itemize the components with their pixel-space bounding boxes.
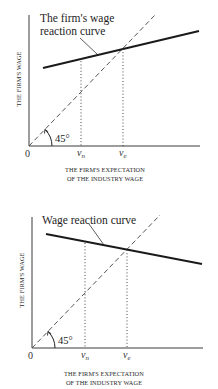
- curve-label-line1: The firm's wage: [40, 12, 114, 25]
- ve-label: ve: [119, 147, 127, 160]
- angle-label: 45°: [55, 133, 70, 144]
- vn-label: vn: [77, 147, 85, 160]
- vn-label: vn: [81, 349, 89, 362]
- angle-arc: [45, 130, 52, 147]
- curve-label: Wage reaction curve: [42, 214, 136, 227]
- x-axis-title-line1: THE FIRM'S EXPECTATION: [64, 370, 144, 377]
- x-axis-title-line1: THE FIRM'S EXPECTATION: [65, 166, 145, 173]
- x-axis-title-line2: OF THE INDUSTRY WAGE: [66, 379, 142, 386]
- x-axis-title-line2: OF THE INDUSTRY WAGE: [67, 175, 143, 182]
- y-axis-title: THE FIRM'S WAGE: [15, 51, 22, 106]
- reaction-curve: [46, 234, 202, 264]
- callout-pointer: [80, 38, 97, 54]
- figure-top: The firm's wage reaction curve 45° 0 vn …: [15, 12, 200, 182]
- origin-label: 0: [25, 148, 30, 159]
- origin-label: 0: [28, 350, 33, 361]
- curve-label-line2: reaction curve: [40, 25, 105, 37]
- wage-reaction-diagrams: The firm's wage reaction curve 45° 0 vn …: [0, 0, 218, 389]
- angle-label: 45°: [58, 335, 73, 346]
- figure-bottom: Wage reaction curve 45° 0 vn ve THE FIRM…: [18, 214, 203, 386]
- ve-label: ve: [123, 349, 131, 362]
- angle-arc: [48, 332, 55, 349]
- y-axis-title: THE FIRM'S WAGE: [18, 252, 25, 307]
